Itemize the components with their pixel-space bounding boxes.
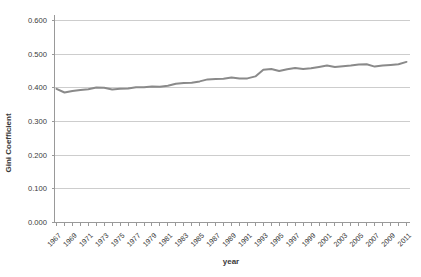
x-axis-title: year (223, 257, 239, 266)
x-tick-label: 1985 (188, 231, 206, 249)
x-tick-label: 2011 (396, 231, 413, 248)
x-tick-label: 1981 (157, 231, 175, 249)
x-tick-label: 1989 (220, 231, 238, 249)
y-tick-label: 0.600 (28, 16, 47, 25)
x-tick-label: 1971 (77, 231, 95, 249)
x-tick-label: 1969 (61, 231, 79, 249)
axes (52, 15, 411, 226)
x-tick-label: 1973 (93, 231, 111, 249)
y-tick-label: 0.200 (28, 151, 47, 160)
x-tick-label: 1991 (236, 231, 254, 249)
x-tick-label: 1997 (284, 231, 302, 249)
y-axis-title: Gini Coefficient (4, 113, 13, 172)
x-tick-label: 1987 (204, 231, 222, 249)
x-tick-label: 1999 (300, 231, 318, 249)
y-tick-label: 0.000 (28, 218, 47, 227)
x-tick-label: 1967 (45, 231, 63, 249)
x-tick-label: 1983 (173, 231, 191, 249)
x-tick-label: 2009 (379, 231, 397, 249)
gini-line-chart: 0.0000.1000.2000.3000.4000.5000.600 1967… (0, 0, 421, 277)
y-tick-label: 0.500 (28, 50, 47, 59)
x-tick-label: 2005 (348, 231, 366, 249)
x-tick-label: 2003 (332, 231, 350, 249)
x-tick-label: 1977 (125, 231, 143, 249)
y-axis-tick-labels: 0.0000.1000.2000.3000.4000.5000.600 (28, 16, 47, 227)
x-tick-label: 1979 (141, 231, 159, 249)
x-tick-label: 1993 (252, 231, 270, 249)
x-axis-tick-labels: 1967196919711973197519771979198119831985… (45, 231, 413, 249)
y-tick-label: 0.400 (28, 83, 47, 92)
y-tick-label: 0.300 (28, 117, 47, 126)
chart-area: 0.0000.1000.2000.3000.4000.5000.600 1967… (0, 0, 421, 277)
x-tick-label: 2007 (363, 231, 381, 249)
x-tick-label: 2001 (316, 231, 334, 249)
x-tick-label: 1975 (109, 231, 127, 249)
y-tick-label: 0.100 (28, 184, 47, 193)
gridlines (55, 21, 411, 189)
x-tick-label: 1995 (268, 231, 286, 249)
